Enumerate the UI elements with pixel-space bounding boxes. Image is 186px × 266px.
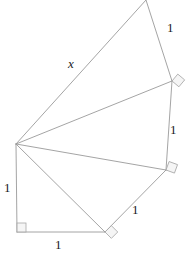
segment-bottom-right-to-lower-right bbox=[105, 170, 166, 232]
label-hypotenuse-unknown: x bbox=[68, 57, 74, 70]
segment-apex-to-top bbox=[16, 0, 146, 144]
label-left-side: 1 bbox=[4, 181, 11, 194]
figure-canvas bbox=[0, 0, 186, 266]
label-lower-right-side: 1 bbox=[132, 203, 139, 216]
segment-apex-to-bottom-left bbox=[16, 144, 17, 232]
right-angle-marker-upper-right bbox=[172, 74, 185, 87]
right-angle-marker-bottom-left bbox=[17, 223, 26, 232]
label-upper-right-side: 1 bbox=[167, 21, 174, 34]
right-angle-marker-lower-right bbox=[166, 162, 178, 174]
label-bottom-side: 1 bbox=[55, 238, 62, 251]
right-angle-marker-bottom-right bbox=[105, 226, 118, 239]
segment-apex-to-upper-right bbox=[16, 81, 172, 144]
label-right-side: 1 bbox=[170, 123, 177, 136]
segment-upper-right-to-top bbox=[146, 0, 172, 81]
geometry-figure: 11111x bbox=[0, 0, 186, 266]
